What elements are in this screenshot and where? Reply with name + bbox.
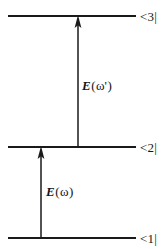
field-symbol-lower: E xyxy=(46,184,55,199)
upper-transition-arrow xyxy=(75,15,82,147)
state-label-1: <1| xyxy=(140,232,157,245)
field-open-paren-upper: ( xyxy=(91,78,95,93)
field-symbol-upper: E xyxy=(82,78,91,93)
state-label-3: <3| xyxy=(140,10,157,23)
field-close-paren-upper: ) xyxy=(107,78,111,93)
energy-level-diagram: <3| <2| <1| E(ω') E(ω) xyxy=(0,0,168,249)
field-open-paren-lower: ( xyxy=(55,184,59,199)
field-label-upper-transition: E(ω') xyxy=(82,79,112,92)
lower-transition-arrow xyxy=(38,146,45,238)
field-argument-upper: ω' xyxy=(96,78,108,93)
diagram-canvas xyxy=(0,0,168,249)
field-close-paren-lower: ) xyxy=(69,184,73,199)
field-label-lower-transition: E(ω) xyxy=(46,185,73,198)
state-label-2: <2| xyxy=(140,141,157,154)
field-argument-lower: ω xyxy=(60,184,70,199)
